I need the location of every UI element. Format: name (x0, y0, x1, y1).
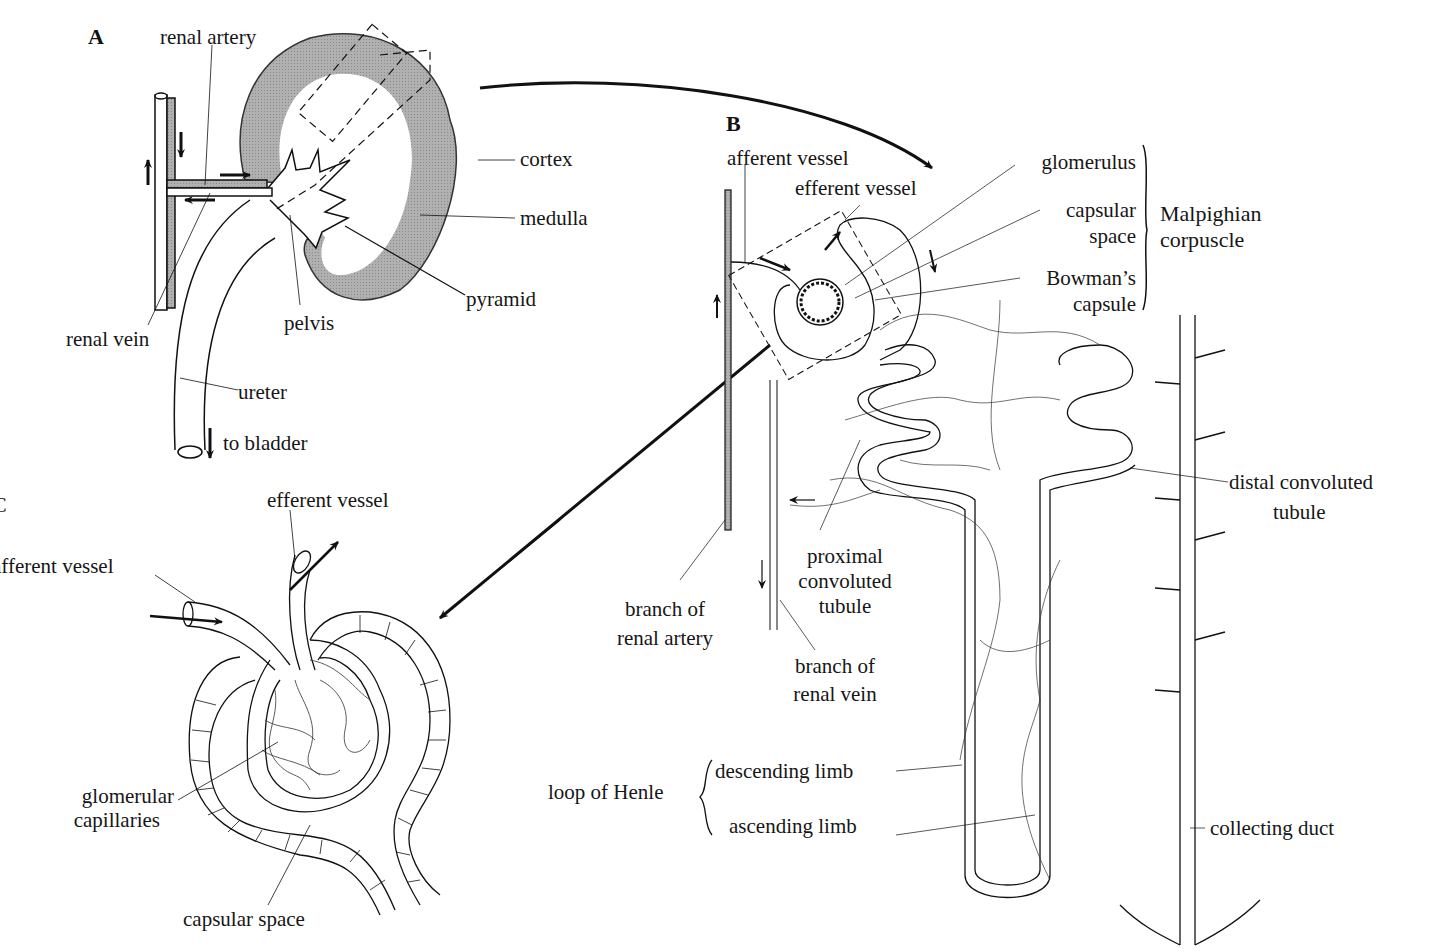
label-branch-artery-line2: renal artery (600, 626, 730, 650)
panel-c-letter: C (0, 492, 7, 518)
label-to-bladder: to bladder (223, 431, 308, 455)
label-capsular-space-line2: space (960, 224, 1136, 248)
label-pelvis: pelvis (284, 311, 334, 335)
label-pyramid: pyramid (466, 287, 536, 311)
label-loop-of-henle: loop of Henle (548, 780, 663, 804)
label-proximal-line2: convoluted (770, 569, 920, 593)
label-malpighian-line2: corpuscle (1160, 228, 1244, 252)
ureter (174, 200, 250, 450)
label-branch-artery-line1: branch of (600, 597, 730, 621)
kidney-diagram (0, 0, 1437, 952)
panel-b-letter: B (726, 111, 741, 137)
label-distal-line2: tubule (1273, 500, 1326, 524)
label-collecting-duct: collecting duct (1210, 816, 1334, 840)
label-proximal-line3: tubule (770, 594, 920, 618)
label-c-efferent-vessel: efferent vessel (267, 488, 388, 512)
label-renal-vein: renal vein (66, 327, 149, 351)
label-b-afferent-vessel: afferent vessel (727, 146, 848, 170)
label-distal-line1: distal convoluted (1229, 470, 1373, 494)
label-ureter: ureter (238, 380, 287, 404)
label-branch-vein-line2: renal vein (780, 682, 890, 706)
label-medulla: medulla (520, 206, 588, 230)
label-branch-vein-line1: branch of (780, 654, 890, 678)
label-malpighian-line1: Malpighian (1160, 202, 1261, 226)
label-glomerular-line2: capillaries (30, 808, 160, 832)
label-c-capsular-space: capsular space (183, 907, 305, 931)
label-glomerulus: glomerulus (960, 150, 1136, 174)
label-bowmans-capsule-line2: capsule (960, 292, 1136, 316)
label-b-efferent-vessel: efferent vessel (795, 176, 916, 200)
label-cortex: cortex (520, 147, 572, 171)
panel-c-glomerulus (150, 510, 450, 915)
label-proximal-line1: proximal (770, 544, 920, 568)
label-bowmans-capsule-line1: Bowman’s (960, 266, 1136, 290)
label-renal-artery: renal artery (160, 25, 256, 49)
panel-a-kidney (148, 24, 515, 458)
label-capsular-space-line1: capsular (960, 198, 1136, 222)
label-ascending-limb: ascending limb (729, 814, 857, 838)
label-glomerular-line1: glomerular (30, 784, 174, 808)
panel-a-letter: A (88, 24, 104, 50)
label-descending-limb: descending limb (715, 759, 853, 783)
label-c-afferent-vessel: afferent vessel (0, 554, 113, 578)
